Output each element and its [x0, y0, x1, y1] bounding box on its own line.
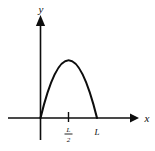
- parabola-figure: y x L 2 L: [0, 0, 155, 151]
- figure-background: [0, 0, 155, 151]
- fraction-denominator: 2: [67, 136, 71, 144]
- tick-label-L: L: [93, 127, 99, 137]
- x-axis-label: x: [144, 112, 150, 124]
- figure-canvas: y x L 2 L: [0, 0, 155, 151]
- y-axis-label: y: [38, 3, 44, 15]
- fraction-numerator: L: [66, 126, 71, 134]
